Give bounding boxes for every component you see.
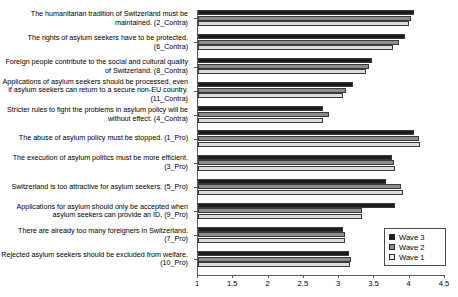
category-label: The humanitarian tradition of Switzerlan… — [0, 10, 188, 27]
y-axis-tick — [194, 235, 197, 236]
bar-group — [198, 82, 444, 99]
legend-swatch-icon — [389, 244, 395, 250]
horizontal-bar-chart: The humanitarian tradition of Switzerlan… — [0, 0, 458, 297]
category-label: Foreign people contribute to the social … — [0, 58, 188, 75]
y-axis-tick — [194, 139, 197, 140]
bar-group — [198, 130, 444, 147]
bar-group — [198, 10, 444, 27]
category-label: Applications for asylum should only be a… — [0, 203, 188, 220]
category-label: Stricter rules to fight the problems in … — [0, 106, 188, 123]
y-axis-tick — [194, 259, 197, 260]
bar-group — [198, 179, 444, 196]
category-label: The execution of asylum politics must be… — [0, 154, 188, 171]
x-axis-tick-label: 4 — [394, 279, 424, 288]
y-axis-tick — [194, 115, 197, 116]
category-label: The abuse of asylum policy must be stopp… — [0, 134, 188, 143]
x-axis-tick-label: 2 — [253, 279, 283, 288]
x-axis-tick — [338, 275, 339, 278]
bar-wave-1 — [198, 166, 395, 171]
bar-wave-3 — [198, 58, 372, 63]
legend-swatch-icon — [389, 234, 395, 240]
y-axis-tick — [194, 163, 197, 164]
bar-wave-1 — [198, 262, 350, 267]
bar-wave-1 — [198, 45, 393, 50]
bar-wave-3 — [198, 251, 349, 256]
bar-wave-2 — [198, 112, 329, 117]
bar-wave-3 — [198, 10, 414, 15]
bar-wave-3 — [198, 130, 414, 135]
bar-wave-2 — [198, 232, 345, 237]
category-label: The rights of asylum seekers have to be … — [0, 34, 188, 51]
category-label: There are already too many foreigners in… — [0, 227, 188, 244]
bar-wave-1 — [198, 214, 362, 219]
x-axis-tick-label: 2.5 — [288, 279, 318, 288]
bar-wave-2 — [198, 88, 346, 93]
bar-group — [198, 203, 444, 220]
legend-item[interactable]: Wave 3 — [389, 232, 441, 242]
y-axis-tick — [194, 211, 197, 212]
x-axis-tick-label: 1 — [182, 279, 212, 288]
bar-wave-2 — [198, 160, 394, 165]
category-label: Switzerland is too attractive for asylum… — [0, 183, 188, 192]
legend-item[interactable]: Wave 2 — [389, 242, 441, 252]
y-axis-tick — [194, 67, 197, 68]
bar-wave-1 — [198, 118, 323, 123]
bar-wave-1 — [198, 93, 343, 98]
x-axis-tick-label: 1.5 — [217, 279, 247, 288]
category-axis-labels: The humanitarian tradition of Switzerlan… — [0, 10, 192, 275]
bar-wave-2 — [198, 208, 362, 213]
bar-wave-3 — [198, 34, 405, 39]
bar-wave-3 — [198, 106, 323, 111]
bar-wave-1 — [198, 190, 403, 195]
bar-wave-1 — [198, 142, 420, 147]
bar-group — [198, 106, 444, 123]
bar-wave-2 — [198, 64, 369, 69]
legend-label: Wave 1 — [399, 253, 424, 262]
category-label: Rejected asylum seekers should be exclud… — [0, 251, 188, 268]
x-axis-tick-label: 3 — [323, 279, 353, 288]
x-axis-tick — [409, 275, 410, 278]
x-axis-tick-label: 4.5 — [429, 279, 458, 288]
x-axis-tick — [197, 275, 198, 278]
bar-wave-2 — [198, 184, 401, 189]
bar-wave-3 — [198, 227, 343, 232]
bar-group — [198, 155, 444, 172]
legend-label: Wave 2 — [399, 243, 424, 252]
y-axis-tick — [194, 187, 197, 188]
y-axis-tick — [194, 18, 197, 19]
legend-label: Wave 3 — [399, 233, 424, 242]
y-axis-tick — [194, 91, 197, 92]
legend-swatch-icon — [389, 254, 395, 260]
bar-wave-2 — [198, 136, 419, 141]
bar-wave-1 — [198, 69, 366, 74]
bar-wave-1 — [198, 21, 409, 26]
bar-wave-1 — [198, 238, 345, 243]
category-label: Applications of asylum seekers should be… — [0, 78, 188, 104]
bar-wave-3 — [198, 82, 353, 87]
x-axis-tick — [303, 275, 304, 278]
x-axis-tick — [232, 275, 233, 278]
x-axis-tick — [268, 275, 269, 278]
y-axis-tick — [194, 42, 197, 43]
x-axis-tick-label: 3.5 — [358, 279, 388, 288]
bar-group — [198, 58, 444, 75]
bar-wave-3 — [198, 203, 395, 208]
bar-wave-2 — [198, 16, 411, 21]
bar-wave-3 — [198, 155, 392, 160]
legend-item[interactable]: Wave 1 — [389, 252, 441, 262]
bar-wave-3 — [198, 179, 386, 184]
x-axis-tick — [444, 275, 445, 278]
chart-legend: Wave 3Wave 2Wave 1 — [384, 228, 446, 266]
bar-wave-2 — [198, 257, 351, 262]
bar-group — [198, 34, 444, 51]
bar-wave-2 — [198, 40, 399, 45]
x-axis-tick — [373, 275, 374, 278]
